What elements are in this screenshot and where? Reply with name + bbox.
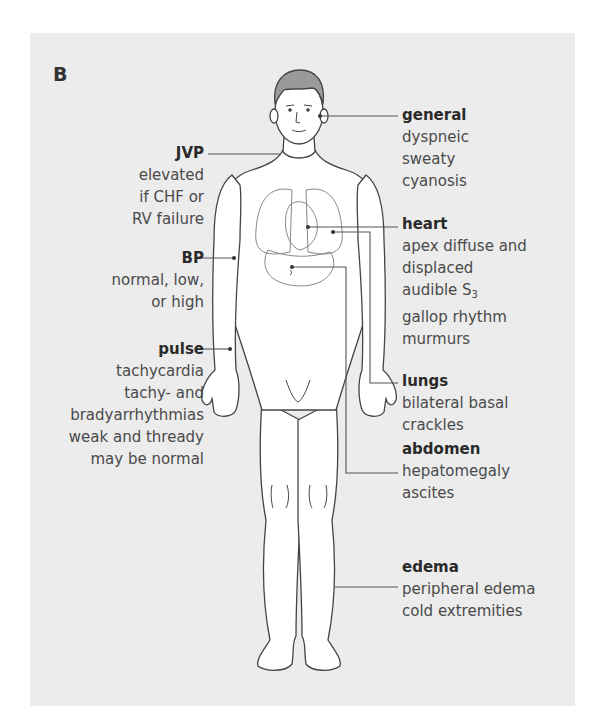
label-line: normal, low, xyxy=(112,269,204,291)
right-arm xyxy=(357,175,396,416)
label-line: RV failure xyxy=(132,208,204,230)
label-line: murmurs xyxy=(402,328,527,350)
right-leg xyxy=(298,400,340,670)
label-line: bradyarrhythmias xyxy=(69,404,204,426)
label-line: cyanosis xyxy=(402,170,469,192)
label-jvp: JVP elevated if CHF or RV failure xyxy=(132,142,204,230)
label-abdomen: abdomen hepatomegaly ascites xyxy=(402,438,510,504)
label-line: audible S3 xyxy=(402,279,527,306)
label-pulse-heading: pulse xyxy=(69,338,204,360)
label-line: weak and thready xyxy=(69,426,204,448)
label-line: apex diffuse and xyxy=(402,235,527,257)
label-jvp-heading: JVP xyxy=(132,142,204,164)
label-lungs: lungs bilateral basal crackles xyxy=(402,370,508,436)
label-line: peripheral edema xyxy=(402,578,535,600)
label-line: cold extremities xyxy=(402,600,535,622)
label-line: dyspneic xyxy=(402,126,469,148)
label-line: may be normal xyxy=(69,448,204,470)
label-bp-heading: BP xyxy=(112,247,204,269)
label-bp: BP normal, low, or high xyxy=(112,247,204,313)
label-pulse: pulse tachycardia tachy- and bradyarrhyt… xyxy=(69,338,204,470)
left-leg xyxy=(258,400,300,670)
label-lungs-heading: lungs xyxy=(402,370,508,392)
label-edema-heading: edema xyxy=(402,556,535,578)
label-line: elevated xyxy=(132,164,204,186)
label-line: crackles xyxy=(402,414,508,436)
label-line: bilateral basal xyxy=(402,392,508,414)
label-general-heading: general xyxy=(402,104,469,126)
torso xyxy=(224,150,375,410)
label-line: if CHF or xyxy=(132,186,204,208)
label-line: tachy- and xyxy=(69,382,204,404)
label-abdomen-heading: abdomen xyxy=(402,438,510,460)
label-heart: heart apex diffuse and displaced audible… xyxy=(402,213,527,350)
left-arm xyxy=(202,175,241,416)
label-line: gallop rhythm xyxy=(402,306,527,328)
label-line: hepatomegaly xyxy=(402,460,510,482)
label-line: ascites xyxy=(402,482,510,504)
label-line: tachycardia xyxy=(69,360,204,382)
label-edema: edema peripheral edema cold extremities xyxy=(402,556,535,622)
label-general: general dyspneic sweaty cyanosis xyxy=(402,104,469,192)
label-line: sweaty xyxy=(402,148,469,170)
label-heart-heading: heart xyxy=(402,213,527,235)
label-line: displaced xyxy=(402,257,527,279)
label-line: or high xyxy=(112,291,204,313)
